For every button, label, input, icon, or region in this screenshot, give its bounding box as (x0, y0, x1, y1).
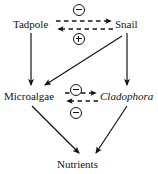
circled-plus-icon-snail-tadpole (73, 33, 85, 45)
minus-bar (73, 112, 79, 113)
circled-minus-icon-tadpole-snail (73, 4, 85, 16)
plus-bar-vertical (78, 36, 79, 42)
minus-bar (76, 9, 82, 10)
node-label-snail: Snail (115, 18, 138, 30)
dashed-arrow-group (56, 21, 113, 101)
interaction-diagram: Tadpole Snail Microalgae Cladophora Nutr… (0, 0, 158, 174)
node-label-cladophora: Cladophora (100, 90, 153, 102)
arrow-cladophora-to-nutrients (96, 106, 127, 153)
arrow-snail-to-microalgae (45, 36, 122, 85)
minus-bar (73, 89, 79, 90)
node-label-nutrients: Nutrients (57, 158, 98, 170)
circled-minus-icon-microalgae-cladophora (70, 84, 82, 96)
node-label-microalgae: Microalgae (4, 90, 54, 102)
circled-minus-icon-cladophora-microalgae (70, 107, 82, 119)
node-label-tadpole: Tadpole (13, 18, 48, 30)
